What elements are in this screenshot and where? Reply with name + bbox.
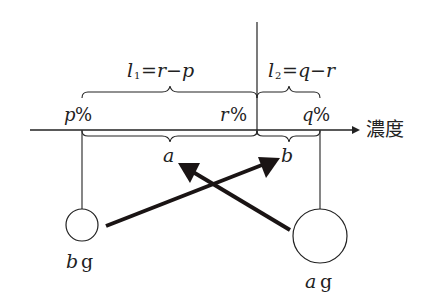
svg-text:%: % bbox=[230, 104, 247, 125]
top-brace-l2 bbox=[257, 86, 320, 98]
concentration-axis bbox=[30, 126, 360, 134]
mixing-concentration-diagram: 濃度 p % r % q % l 1 =r−p l 2 =q−r a b b g… bbox=[0, 0, 434, 306]
bottom-brace-a bbox=[82, 131, 257, 142]
svg-text:g: g bbox=[320, 270, 332, 292]
svg-text:1: 1 bbox=[134, 70, 140, 81]
point-label-q: q % bbox=[302, 104, 330, 125]
svg-text:=q−r: =q−r bbox=[282, 59, 337, 81]
svg-text:%: % bbox=[313, 104, 330, 125]
svg-text:=r−p: =r−p bbox=[141, 59, 194, 81]
bottom-brace-b bbox=[257, 131, 320, 142]
label-l2: l 2 =q−r bbox=[268, 59, 337, 81]
svg-text:l: l bbox=[127, 59, 133, 81]
label-l1: l 1 =r−p bbox=[127, 59, 194, 81]
left-weight-label: b g bbox=[66, 250, 93, 272]
svg-text:l: l bbox=[268, 59, 274, 81]
svg-text:a: a bbox=[305, 270, 316, 292]
label-a: a bbox=[163, 144, 174, 166]
svg-text:g: g bbox=[81, 250, 93, 272]
svg-text:b: b bbox=[66, 250, 78, 272]
axis-arrow-icon bbox=[352, 126, 360, 134]
point-label-p: p % bbox=[64, 104, 92, 125]
right-weight-label: a g bbox=[305, 270, 332, 292]
top-brace-l1 bbox=[82, 86, 257, 98]
svg-text:%: % bbox=[75, 104, 92, 125]
arrow-right-to-a-icon bbox=[178, 163, 290, 230]
svg-text:q: q bbox=[302, 104, 314, 125]
right-weight-circle bbox=[293, 209, 347, 263]
svg-text:2: 2 bbox=[275, 70, 281, 81]
label-b: b bbox=[281, 144, 293, 166]
point-label-r: r % bbox=[220, 104, 247, 125]
left-weight-circle bbox=[66, 209, 98, 241]
svg-text:r: r bbox=[220, 104, 230, 125]
axis-label: 濃度 bbox=[366, 118, 404, 140]
